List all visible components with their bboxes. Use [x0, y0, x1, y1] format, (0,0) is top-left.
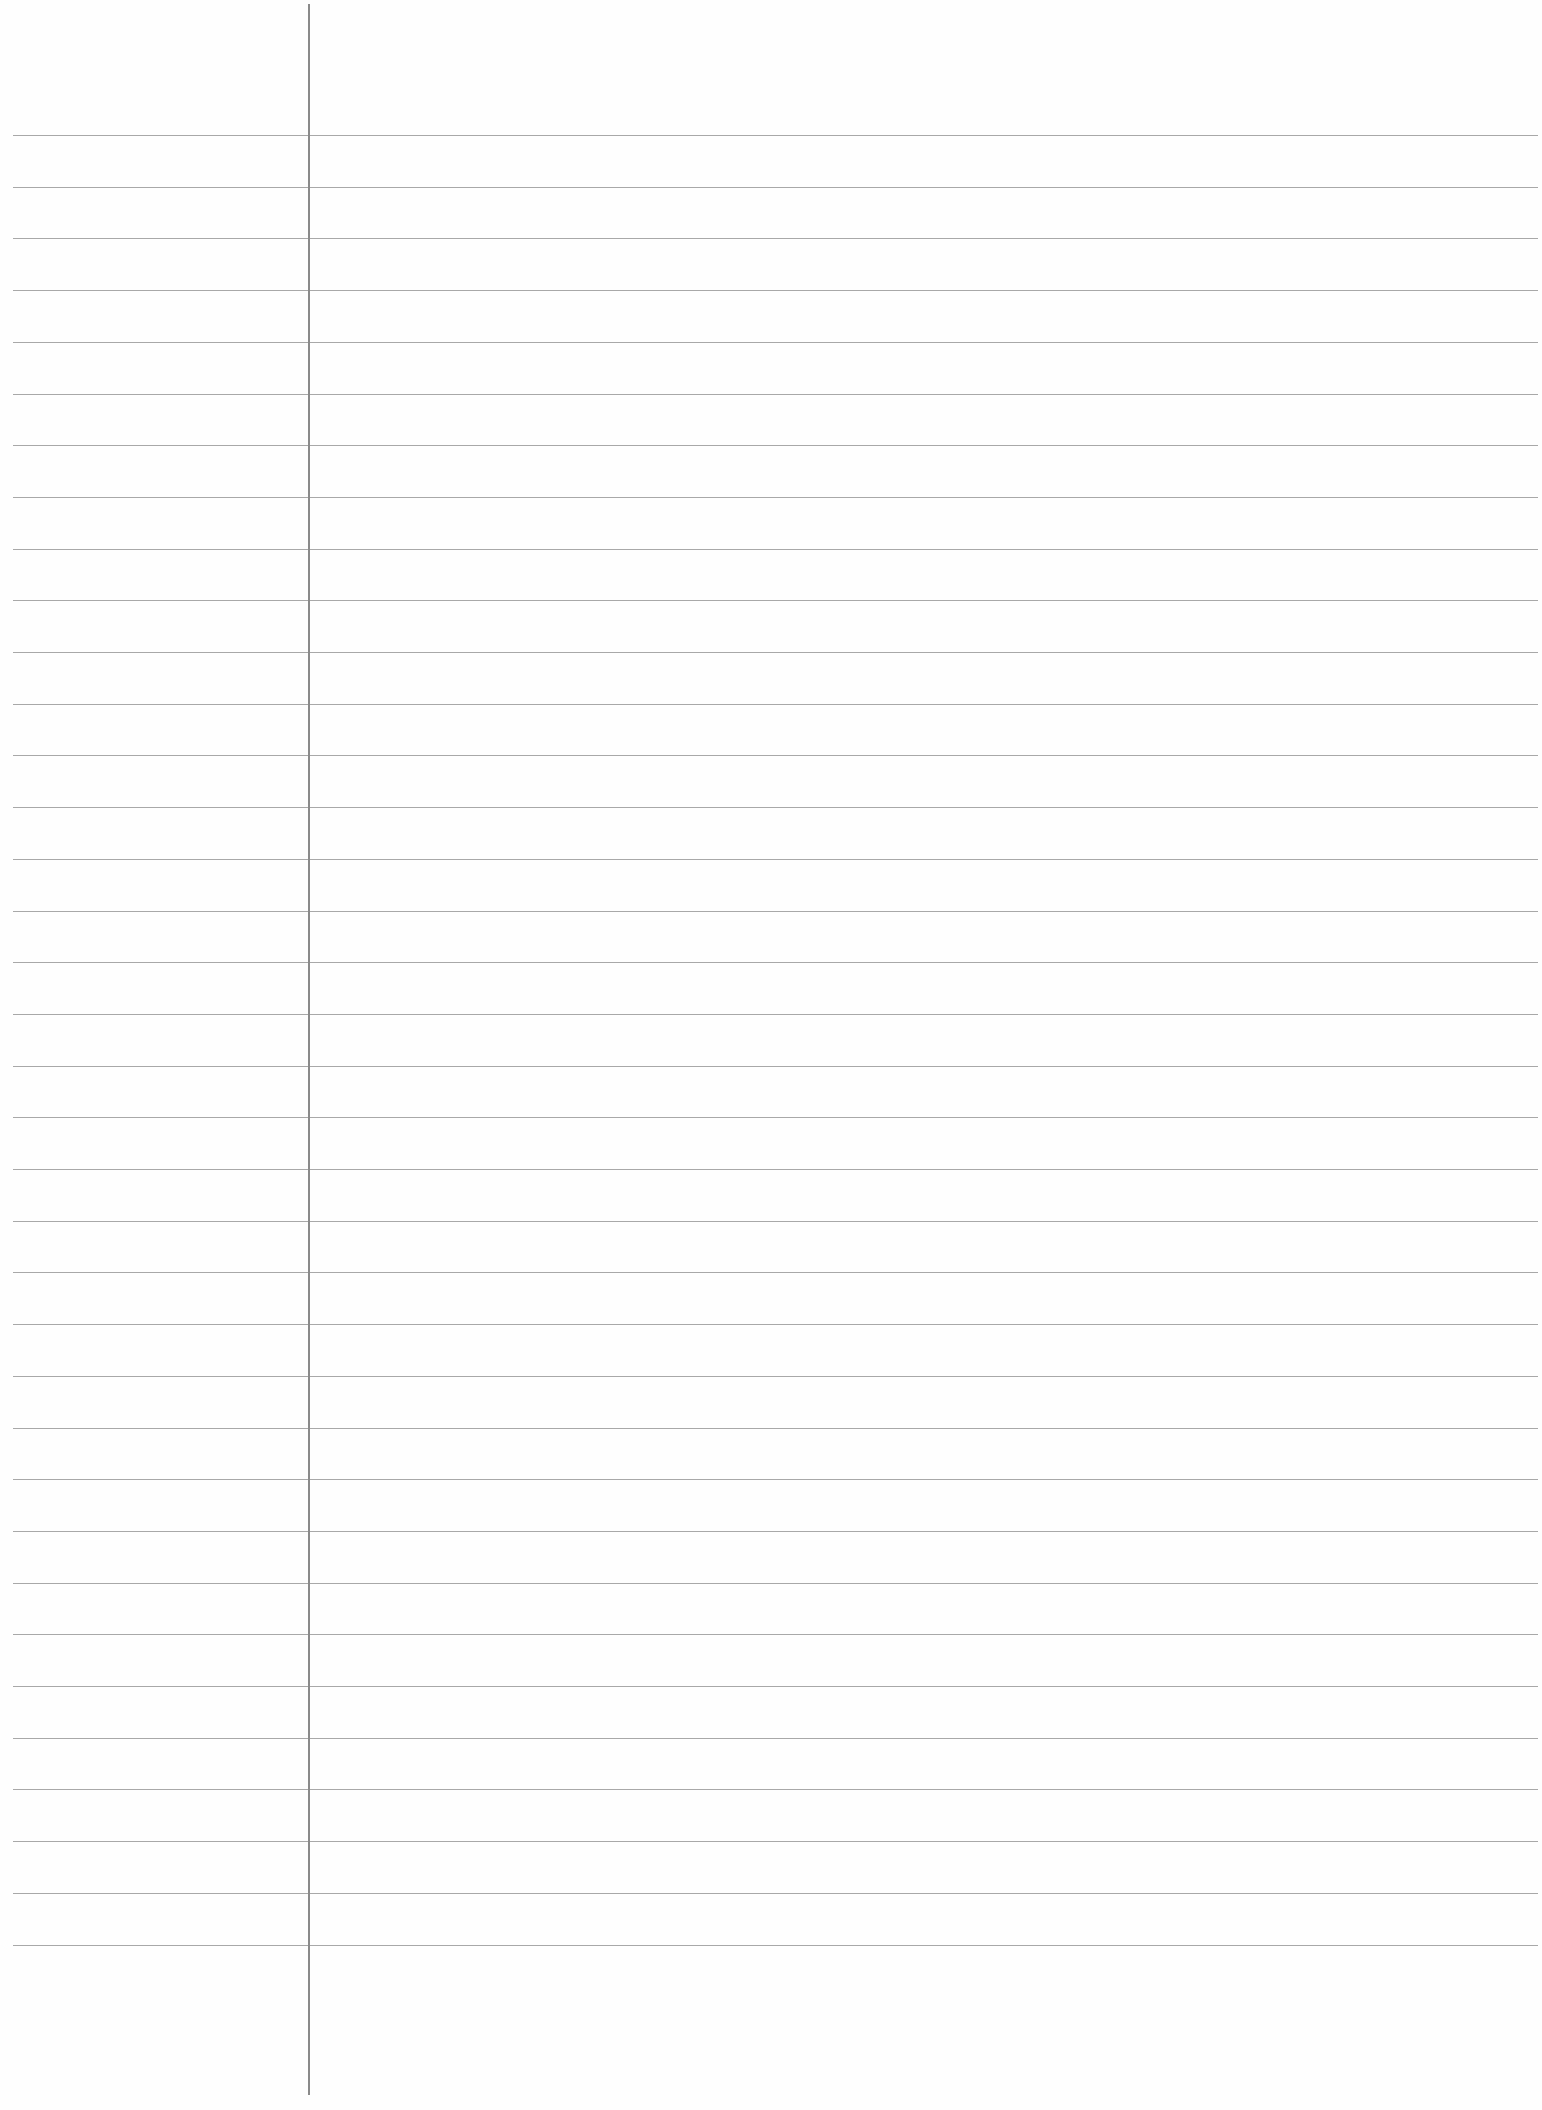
ruled-line — [13, 290, 1538, 291]
ruled-line — [13, 497, 1538, 498]
ruled-line — [13, 1324, 1538, 1325]
ruled-line — [13, 549, 1538, 550]
ruled-line — [13, 1634, 1538, 1635]
ruled-line — [13, 807, 1538, 808]
margin-line — [308, 4, 310, 2095]
ruled-line — [13, 1169, 1538, 1170]
ruled-line — [13, 704, 1538, 705]
ruled-line — [13, 1272, 1538, 1273]
ruled-line — [13, 238, 1538, 239]
ruled-line — [13, 1428, 1538, 1429]
ruled-line — [13, 1117, 1538, 1118]
ruled-line — [13, 1945, 1538, 1946]
ruled-line — [13, 394, 1538, 395]
ruled-line — [13, 962, 1538, 963]
ruled-line — [13, 652, 1538, 653]
ruled-line — [13, 1479, 1538, 1480]
ruled-line — [13, 755, 1538, 756]
ruled-line — [13, 1789, 1538, 1790]
ruled-line — [13, 1376, 1538, 1377]
ruled-line — [13, 1014, 1538, 1015]
ruled-line — [13, 1686, 1538, 1687]
ruled-line — [13, 1583, 1538, 1584]
ruled-line — [13, 600, 1538, 601]
ruled-line — [13, 1221, 1538, 1222]
ruled-line — [13, 911, 1538, 912]
ruled-line — [13, 135, 1538, 136]
ruled-line — [13, 445, 1538, 446]
ruled-line — [13, 342, 1538, 343]
ruled-line — [13, 1841, 1538, 1842]
ruled-line — [13, 859, 1538, 860]
ruled-line — [13, 1066, 1538, 1067]
ruled-line — [13, 1738, 1538, 1739]
ruled-line — [13, 1531, 1538, 1532]
ruled-line — [13, 1893, 1538, 1894]
ruled-line — [13, 187, 1538, 188]
lined-paper-page — [0, 0, 1542, 2110]
